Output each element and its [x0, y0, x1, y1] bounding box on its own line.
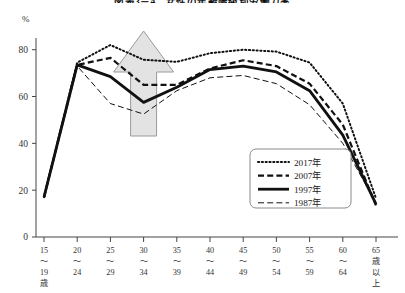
- x-tick-7: 50～54: [272, 246, 280, 277]
- legend-label-1997年: 1997年: [294, 184, 321, 195]
- y-tick-20: 20: [19, 186, 29, 196]
- y-tick-40: 40: [19, 139, 29, 149]
- y-tick-0: 0: [23, 232, 28, 242]
- y-tick-60: 60: [19, 92, 29, 102]
- legend-label-2017年: 2017年: [294, 157, 321, 168]
- x-tick-8: 55～59: [306, 246, 314, 277]
- x-tick-2: 25～29: [106, 246, 114, 277]
- legend-label-1987年: 1987年: [294, 197, 321, 208]
- x-tick-5: 40～44: [206, 246, 214, 277]
- x-tick-9: 60～64: [339, 246, 347, 277]
- chart-legend: 2017年2007年1997年1987年: [250, 149, 351, 208]
- x-tick-10: 65歳以上: [372, 246, 380, 288]
- x-tick-6: 45～49: [239, 246, 247, 277]
- legend-label-2007年: 2007年: [294, 170, 321, 181]
- x-tick-3: 30～34: [140, 246, 148, 277]
- line-chart-plot: % 020406080 15～19歳20～2425～2930～3435～3940…: [0, 0, 405, 293]
- y-tick-80: 80: [19, 45, 29, 55]
- y-axis-unit-label: %: [22, 14, 30, 24]
- x-axis-tick-labels: 15～19歳20～2425～2930～3435～3940～4445～4950～5…: [40, 246, 380, 288]
- y-axis-tick-labels: 020406080: [19, 45, 29, 242]
- x-tick-1: 20～24: [73, 246, 81, 277]
- x-tick-4: 35～39: [173, 246, 181, 277]
- chart-figure: 図表3－4 女性の年齢階級別労働力率 % 020406080 15～19歳20～…: [0, 0, 405, 293]
- x-tick-0: 15～19歳: [40, 246, 48, 288]
